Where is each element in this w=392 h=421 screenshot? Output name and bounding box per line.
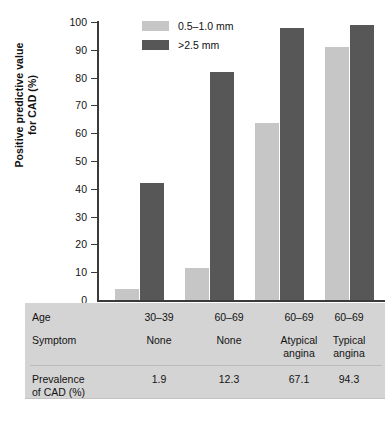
table-cell-age-1: 30–39: [123, 311, 195, 324]
table-cell-symptom-4-line2: angina: [313, 347, 385, 360]
bar-group1-series-large[interactable]: [140, 183, 164, 300]
chart-legend: 0.5–1.0 mm >2.5 mm: [142, 18, 292, 56]
y-tick-label-80: 80: [57, 78, 87, 79]
category-table: Age 30–39 60–69 60–69 60–69 Symptom None…: [25, 303, 385, 398]
y-tick-label-90: 90: [57, 50, 87, 51]
table-cell-age-4: 60–69: [313, 311, 385, 324]
table-row-prevalence-label-line2: of CAD (%): [32, 386, 85, 399]
bar-group2-series-small[interactable]: [185, 268, 209, 300]
bar-group1-series-small[interactable]: [115, 289, 139, 300]
table-cell-prevalence-1: 1.9: [123, 373, 195, 386]
y-tick-label-60: 60: [57, 133, 87, 134]
y-tick-label-50: 50: [57, 161, 87, 162]
legend-swatch-large-icon: [142, 40, 169, 50]
plot-area: [97, 22, 384, 300]
y-tick-label-0: 0: [57, 300, 87, 301]
y-tick-label-30: 30: [57, 217, 87, 218]
table-bottom-border: [25, 398, 385, 399]
y-tick-0: 0: [0, 300, 392, 301]
table-cell-prevalence-2: 12.3: [193, 373, 265, 386]
y-tick-label-70: 70: [57, 105, 87, 106]
y-tick-label-100: 100: [57, 22, 87, 23]
table-cell-symptom-2: None: [193, 334, 265, 347]
table-row-prevalence-label-line1: Prevalence: [32, 373, 85, 386]
y-tick-label-10: 10: [57, 272, 87, 273]
bar-group4-series-large[interactable]: [350, 25, 374, 300]
legend-swatch-small-icon: [142, 21, 169, 31]
table-row-age-label: Age: [32, 311, 51, 324]
bar-group2-series-large[interactable]: [210, 72, 234, 300]
y-tick-label-40: 40: [57, 189, 87, 190]
bar-group3-series-small[interactable]: [255, 123, 279, 300]
legend-label-small: 0.5–1.0 mm: [178, 21, 233, 32]
table-cell-symptom-4-line1: Typical: [313, 334, 385, 347]
legend-label-large: >2.5 mm: [178, 40, 219, 51]
table-cell-age-2: 60–69: [193, 311, 265, 324]
legend-item-small[interactable]: 0.5–1.0 mm: [142, 18, 292, 34]
legend-item-large[interactable]: >2.5 mm: [142, 37, 292, 53]
bar-group3-series-large[interactable]: [280, 28, 304, 300]
chart-figure: Positive predictive value for CAD (%) 10…: [0, 0, 392, 421]
bar-group4-series-small[interactable]: [325, 47, 349, 300]
table-separator: [30, 365, 382, 366]
table-cell-symptom-1: None: [123, 334, 195, 347]
y-tick-label-20: 20: [57, 244, 87, 245]
table-cell-prevalence-4: 94.3: [313, 373, 385, 386]
table-row-symptom-label: Symptom: [32, 334, 76, 347]
